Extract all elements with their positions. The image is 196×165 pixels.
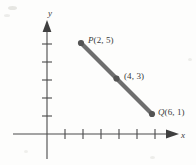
midpoint-dot [113,75,119,81]
point-p-coords: (2, 5) [94,35,114,45]
scan-speckle [4,14,10,17]
scan-speckle [8,6,17,10]
point-p-dot [78,40,84,46]
scan-speckle [24,150,28,153]
x-axis-label: x [181,130,185,140]
midpoint-coords: (4, 3) [124,71,144,81]
scan-speckle [150,156,155,159]
x-axis-arrow-icon [166,130,179,139]
point-q-label: Q(6, 1) [158,107,185,117]
plot-canvas [0,0,196,165]
midpoint-label: (4, 3) [124,71,144,81]
point-q-coords: (6, 1) [165,107,185,117]
coordinate-plane-figure: P(2, 5) (4, 3) Q(6, 1) x y [0,0,196,165]
y-axis-label: y [48,8,52,18]
scan-speckle [188,58,192,61]
y-axis-arrow-icon [43,20,52,32]
point-p-label: P(2, 5) [88,35,114,45]
point-q-name: Q [158,107,165,117]
point-q-dot [149,111,155,117]
